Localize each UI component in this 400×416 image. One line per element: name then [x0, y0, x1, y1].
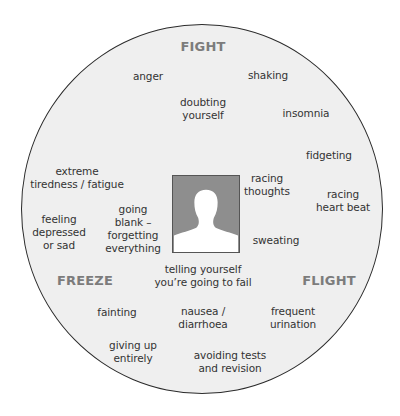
heading-fight: FIGHT [180, 39, 225, 54]
person-silhouette-icon [172, 175, 240, 253]
heading-freeze: FREEZE [57, 273, 113, 288]
symptom-anger: anger [133, 70, 163, 83]
symptom-going-blank: going blank – forgetting everything [105, 203, 161, 255]
symptom-racing-thoughts: racing thoughts [244, 172, 290, 198]
symptom-telling-yourself-fail: telling yourself you’re going to fail [154, 263, 251, 289]
symptom-insomnia: insomnia [283, 107, 330, 120]
symptom-fidgeting: fidgeting [306, 149, 352, 162]
symptom-nausea: nausea / diarrhoea [178, 305, 227, 331]
symptom-shaking: shaking [248, 69, 288, 82]
symptom-fatigue: extreme tiredness / fatigue [30, 165, 124, 191]
symptom-doubting-yourself: doubting yourself [180, 96, 226, 122]
heading-flight: FLIGHT [302, 273, 356, 288]
symptom-racing-heart-beat: racing heart beat [316, 188, 370, 214]
symptom-fainting: fainting [97, 306, 136, 319]
symptom-avoiding-tests: avoiding tests and revision [194, 349, 266, 375]
symptom-giving-up: giving up entirely [109, 339, 157, 365]
symptom-feeling-depressed: feeling depressed or sad [32, 213, 86, 252]
symptom-sweating: sweating [253, 234, 300, 247]
symptom-frequent-urination: frequent urination [270, 305, 316, 331]
